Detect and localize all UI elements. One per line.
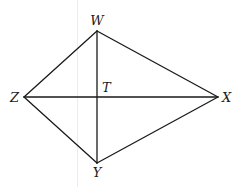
kite-diagram: W X Y Z T [0,0,242,187]
side-wx [97,31,218,97]
vertex-label-y: Y [93,165,103,180]
vertex-label-x: X [221,90,232,105]
side-xy [97,97,218,163]
vertex-label-z: Z [9,90,20,105]
vertex-label-w: W [90,13,105,28]
side-yz [24,97,97,163]
intersection-label-t: T [102,80,112,95]
side-zw [24,31,97,97]
